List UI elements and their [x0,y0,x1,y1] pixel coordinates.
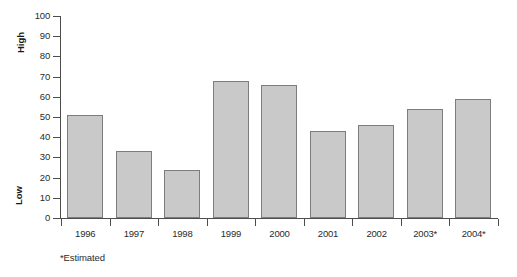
x-axis-label-1996: 1996 [61,228,110,239]
bar-1998 [164,170,200,218]
y-axis-tick [53,77,60,78]
bar-2004-est [455,99,491,218]
y-axis-tick-label: 100 [28,11,50,20]
x-axis-tick [207,219,208,226]
y-axis-tick-label: 80 [28,51,50,60]
x-axis-label-1999: 1999 [207,228,256,239]
bar-slot [158,16,207,218]
x-axis-tick [449,219,450,226]
bar-1997 [116,151,152,218]
bar-2002 [358,125,394,218]
x-axis-tick [110,219,111,226]
x-axis-label-2002: 2002 [352,228,401,239]
y-axis-tick-label: 30 [28,152,50,161]
y-axis-tick-label: 0 [28,213,50,222]
bar-2000 [261,85,297,218]
y-axis-tick-label: 60 [28,92,50,101]
x-axis-tick [158,219,159,226]
bar-2003-est [407,109,443,218]
x-axis-label-2000: 2000 [255,228,304,239]
bar-slot [352,16,401,218]
x-axis-tick [61,219,62,226]
y-axis-bottom-label: Low [13,174,24,218]
y-axis-tick-label: 90 [28,31,50,40]
y-axis-tick [53,36,60,37]
bar-1999 [213,81,249,218]
x-axis-tick [304,219,305,226]
y-axis-tick-label: 20 [28,173,50,182]
bar-chart: High Low 0102030405060708090100 19961997… [0,0,517,277]
y-axis-tick [53,198,60,199]
footnote-estimated: *Estimated [60,252,105,263]
x-axis-tick [352,219,353,226]
plot-area [61,16,498,218]
y-axis-tick-labels: 0102030405060708090100 [26,0,50,277]
y-axis-tick [53,137,60,138]
x-axis-label-1997: 1997 [110,228,159,239]
x-axis-line [54,218,498,219]
y-axis-tick-label: 50 [28,112,50,121]
x-axis-label-2001: 2001 [304,228,353,239]
x-axis-tick [255,219,256,226]
bar-slot [255,16,304,218]
y-axis-tick [53,157,60,158]
y-axis-tick [53,16,60,17]
bar-slot [449,16,498,218]
x-axis-tick [401,219,402,226]
y-axis-tick-label: 10 [28,193,50,202]
bar-slot [207,16,256,218]
x-axis-label-2004-est: 2004* [449,228,498,239]
y-axis-tick-label: 70 [28,72,50,81]
x-axis-label-1998: 1998 [158,228,207,239]
bar-slot [110,16,159,218]
y-axis-tick [53,178,60,179]
bar-1996 [67,115,103,218]
bar-2001 [310,131,346,218]
y-axis-tick [53,117,60,118]
y-axis-tick [53,218,60,219]
y-axis-top-label: High [15,21,26,65]
y-axis-tick-label: 40 [28,132,50,141]
bar-slot [401,16,450,218]
bar-slot [304,16,353,218]
y-axis-tick [53,56,60,57]
x-axis-label-2003-est: 2003* [401,228,450,239]
x-axis-tick [498,219,499,226]
bar-slot [61,16,110,218]
y-axis-tick [53,97,60,98]
